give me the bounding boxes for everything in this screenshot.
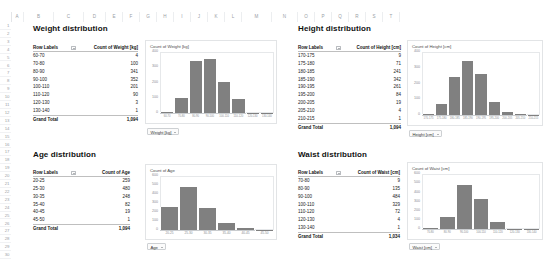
row-header-22[interactable]: 22 (0, 188, 11, 196)
chart-bar[interactable] (160, 112, 174, 113)
chart-waist[interactable]: Count of Waist [cm] 01002003004005006007… (407, 162, 543, 240)
row-header-20[interactable]: 20 (0, 172, 11, 180)
pivot-data-row[interactable]: 90-100484 (298, 193, 400, 201)
field-button-weight[interactable]: Weight [kg] (147, 128, 179, 135)
pivot-data-row[interactable]: 25-30480 (33, 185, 130, 193)
column-header-B[interactable]: B (24, 12, 54, 22)
pivot-data-row[interactable]: 210-2151 (298, 115, 401, 123)
column-header-L[interactable]: L (225, 12, 242, 22)
pivot-table-height[interactable]: Row LabelsCount of Height [cm]170-175917… (298, 44, 401, 131)
pivot-data-row[interactable]: 195-20084 (298, 91, 401, 99)
row-header-7[interactable]: 7 (0, 69, 11, 77)
chart-bar[interactable] (461, 61, 474, 115)
row-header-14[interactable]: 14 (0, 125, 11, 133)
pivot-data-row[interactable]: 205-2104 (298, 107, 401, 115)
pivot-table-age[interactable]: Row LabelsCount of Age20-2525925-3048030… (33, 169, 130, 232)
chart-weight[interactable]: Count of Weight [kg] 010020030040060-707… (145, 40, 277, 124)
row-header-10[interactable]: 10 (0, 93, 11, 101)
pivot-data-row[interactable]: 80-90135 (298, 185, 400, 193)
row-header-8[interactable]: 8 (0, 77, 11, 85)
row-header-3[interactable]: 3 (0, 38, 11, 46)
pivot-data-row[interactable]: 200-20519 (298, 99, 401, 107)
pivot-data-row[interactable]: 180-185241 (298, 68, 401, 76)
row-header-11[interactable]: 11 (0, 101, 11, 109)
pivot-data-row[interactable]: 130-1401 (298, 224, 400, 232)
chart-bar[interactable] (501, 112, 514, 115)
chart-bar[interactable] (217, 82, 231, 113)
chart-bar[interactable] (439, 217, 456, 229)
row-header-26[interactable]: 26 (0, 220, 11, 228)
row-header-5[interactable]: 5 (0, 54, 11, 62)
pivot-data-row[interactable]: 30-35248 (33, 193, 130, 201)
row-header-1[interactable]: 1 (0, 22, 11, 30)
pivot-data-row[interactable]: 170-1759 (298, 52, 401, 60)
field-button-height[interactable]: Height [cm] (409, 130, 442, 137)
column-header-T[interactable]: T (383, 12, 400, 22)
row-header-25[interactable]: 25 (0, 212, 11, 220)
column-header-bar[interactable]: ABCDEFGHIJKLMNOPQRST (0, 12, 560, 22)
row-header-30[interactable]: 30 (0, 251, 11, 259)
chart-bar[interactable] (456, 185, 473, 229)
field-button-age[interactable]: Age (147, 243, 166, 250)
chart-bar[interactable] (514, 114, 527, 115)
column-header-F[interactable]: F (123, 12, 140, 22)
pivot-data-row[interactable]: 100-110201 (33, 83, 138, 91)
pivot-data-row[interactable]: 20-25259 (33, 177, 130, 185)
column-header-C[interactable]: C (54, 12, 84, 22)
chart-height[interactable]: Count of Height [cm] 0100200300400170-17… (407, 40, 543, 126)
chart-bar[interactable] (231, 99, 245, 113)
chart-bar[interactable] (198, 208, 217, 230)
row-header-21[interactable]: 21 (0, 180, 11, 188)
pivot-table-waist[interactable]: Row LabelsCount of Waist [cm]70-80980-90… (298, 169, 400, 240)
row-header-17[interactable]: 17 (0, 148, 11, 156)
column-header-M[interactable]: M (242, 12, 272, 22)
chart-bar[interactable] (179, 187, 198, 230)
pivot-data-row[interactable]: 80-90341 (33, 68, 138, 76)
chart-bar[interactable] (435, 104, 448, 115)
row-header-29[interactable]: 29 (0, 243, 11, 251)
column-header-E[interactable]: E (106, 12, 123, 22)
column-header-K[interactable]: K (208, 12, 225, 22)
row-header-bar[interactable]: 1234567891011121314151617181920212223242… (0, 22, 11, 259)
pivot-table-weight[interactable]: Row LabelsCount of Weight [kg]60-70470-8… (33, 44, 138, 123)
row-header-16[interactable]: 16 (0, 141, 11, 149)
chart-bar[interactable] (448, 77, 461, 115)
chart-bar[interactable] (189, 61, 203, 113)
chart-bar[interactable] (174, 98, 188, 113)
column-header-G[interactable]: G (140, 12, 157, 22)
column-header-R[interactable]: R (349, 12, 366, 22)
row-header-18[interactable]: 18 (0, 156, 11, 164)
row-header-2[interactable]: 2 (0, 30, 11, 38)
chart-bar[interactable] (422, 228, 439, 229)
row-header-12[interactable]: 12 (0, 109, 11, 117)
field-button-waist[interactable]: Waist [cm] (409, 243, 440, 250)
column-header-N[interactable]: N (272, 12, 298, 22)
filter-dropdown-icon[interactable] (336, 46, 341, 51)
chart-bar[interactable] (236, 228, 255, 230)
pivot-data-row[interactable]: 185-190342 (298, 76, 401, 84)
chart-bar[interactable] (489, 222, 506, 229)
pivot-data-row[interactable]: 110-12090 (33, 91, 138, 99)
chart-age[interactable]: Count of Age 010020030040050060020-2525-… (145, 164, 277, 240)
row-header-9[interactable]: 9 (0, 85, 11, 93)
row-header-28[interactable]: 28 (0, 235, 11, 243)
column-header-A[interactable]: A (11, 12, 24, 22)
pivot-data-row[interactable]: 175-18071 (298, 60, 401, 68)
column-header-H[interactable]: H (157, 12, 174, 22)
filter-dropdown-icon[interactable] (71, 171, 76, 176)
chart-bar[interactable] (203, 59, 217, 113)
chart-bar[interactable] (160, 207, 179, 230)
pivot-data-row[interactable]: 100-110329 (298, 201, 400, 209)
pivot-data-row[interactable]: 130-1401 (33, 107, 138, 115)
column-header-Q[interactable]: Q (332, 12, 349, 22)
column-header-S[interactable]: S (366, 12, 383, 22)
chart-bar[interactable] (217, 223, 236, 230)
chart-bar[interactable] (474, 74, 487, 115)
pivot-data-row[interactable]: 70-80100 (33, 60, 138, 68)
pivot-data-row[interactable]: 45-501 (33, 216, 130, 224)
pivot-data-row[interactable]: 70-809 (298, 177, 400, 185)
filter-dropdown-icon[interactable] (71, 46, 76, 51)
pivot-data-row[interactable]: 35-4082 (33, 201, 130, 209)
pivot-data-row[interactable]: 40-4519 (33, 208, 130, 216)
chart-bar[interactable] (422, 114, 435, 115)
